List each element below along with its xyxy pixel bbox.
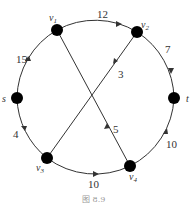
edge-s-v3: [17, 98, 47, 158]
edge-v2-v3: [47, 32, 137, 158]
node-s: [11, 92, 23, 104]
flow-network-diagram: v1 v2 s t v3 v4 12 15 7 3 4 5 10 10 图 8.…: [0, 0, 193, 205]
arrow-v1-v2-icon: [116, 21, 122, 27]
weight-s-v3: 4: [13, 128, 19, 140]
arrow-v3-v4-icon: [93, 171, 99, 177]
label-v3: v3: [36, 162, 44, 175]
edge-v2-t: [137, 32, 174, 98]
figure-caption: 图 8.9: [82, 195, 105, 204]
weight-v4-v1: 5: [113, 123, 119, 135]
node-t: [168, 92, 180, 104]
weight-v3-v4: 10: [88, 178, 100, 190]
arrow-s-v3-icon: [21, 126, 27, 131]
label-t: t: [186, 93, 189, 104]
node-v1: [51, 24, 63, 36]
arrow-v4-t-icon: [163, 128, 168, 134]
edge-v3-v4: [47, 158, 130, 174]
label-v1: v1: [49, 12, 57, 25]
arrow-v4-v1-icon: [104, 123, 110, 129]
weight-v4-t: 10: [166, 138, 178, 150]
edge-v1-v2: [57, 20, 137, 32]
weight-v1-v2: 12: [97, 8, 108, 20]
label-s: s: [2, 93, 6, 104]
edge-v1-v4: [57, 30, 130, 166]
node-v3: [41, 152, 53, 164]
weight-s-v1: 15: [16, 53, 28, 65]
weight-v2-v3: 3: [118, 68, 124, 80]
weight-v2-t: 7: [165, 43, 171, 55]
label-v4: v4: [129, 171, 137, 184]
